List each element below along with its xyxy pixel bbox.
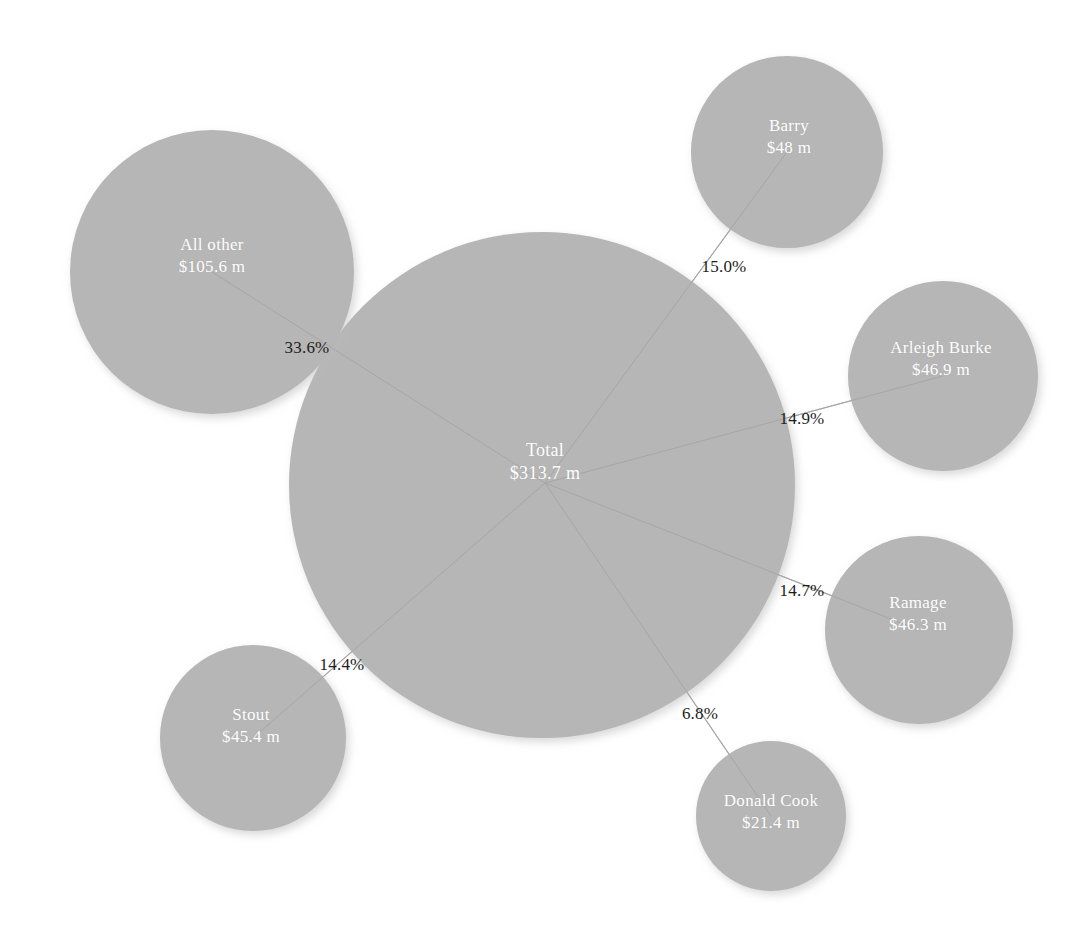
bubbles-group (70, 56, 1038, 891)
bubble-chart-svg (0, 0, 1076, 926)
bubble-chart: Total$313.7 mAll other$105.6 mBarry$48 m… (0, 0, 1076, 926)
